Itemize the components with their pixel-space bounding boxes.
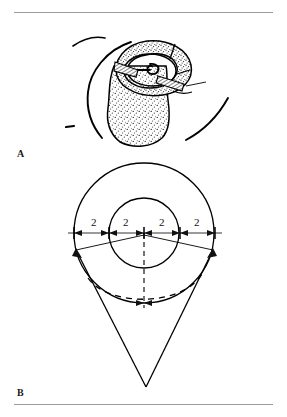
detached-arc-upper-left bbox=[73, 37, 105, 46]
panel-b-diagram: 2 2 2 2 bbox=[0, 160, 287, 400]
outline-arc-right bbox=[186, 98, 228, 140]
figure-page: A bbox=[0, 0, 287, 417]
panel-label-b: B bbox=[17, 387, 24, 398]
radial-line-left bbox=[76, 235, 144, 250]
pointer-line-right bbox=[186, 82, 206, 86]
dimension-label-4: 2 bbox=[194, 216, 200, 228]
panel-label-a: A bbox=[17, 148, 24, 159]
dimension-label-3: 2 bbox=[159, 216, 165, 228]
dimension-arrow-left-inner-b bbox=[109, 230, 117, 236]
cone-left-side bbox=[76, 250, 146, 387]
centerline-arrow-left bbox=[136, 300, 144, 306]
bottom-rule bbox=[14, 404, 273, 405]
dimension-arrow-right-inner-b bbox=[180, 230, 188, 236]
dash-mark-lower-left bbox=[66, 126, 74, 127]
panel-b-figure: 2 2 2 2 bbox=[0, 160, 287, 400]
dimension-arrow-left-inner-a bbox=[101, 230, 109, 236]
centerline-arrow-right bbox=[144, 300, 152, 306]
dimension-arrow-left-outer bbox=[74, 230, 82, 236]
panel-a-drawing bbox=[0, 14, 287, 154]
dashed-arc bbox=[88, 274, 202, 299]
dimension-label-1: 2 bbox=[91, 216, 97, 228]
dimension-label-2: 2 bbox=[123, 216, 129, 228]
panel-a-figure bbox=[0, 14, 287, 154]
top-rule bbox=[14, 12, 273, 13]
